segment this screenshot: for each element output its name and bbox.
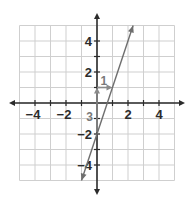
rise-label: 3 (86, 110, 93, 124)
y-tick-label: 4 (85, 34, 93, 49)
line-arrowhead-top-icon (128, 26, 134, 34)
x-tick-label: −2 (57, 107, 72, 122)
line-arrowhead-bottom-icon (81, 173, 87, 181)
x-tick-label: 4 (155, 107, 163, 122)
y-tick-label: −2 (77, 127, 92, 142)
x-tick-label: −4 (26, 107, 42, 122)
y-axis-down-arrow-icon (94, 189, 100, 195)
y-axis-up-arrow-icon (94, 13, 100, 19)
run-label: 1 (100, 74, 107, 88)
y-tick-label: 2 (85, 65, 92, 80)
x-tick-label: 2 (124, 107, 131, 122)
rise-arrowhead-icon (94, 88, 100, 94)
coordinate-plane: −4−22442−2−4 31 (0, 0, 189, 202)
x-axis-left-arrow-icon (9, 100, 15, 106)
x-axis-right-arrow-icon (179, 100, 185, 106)
